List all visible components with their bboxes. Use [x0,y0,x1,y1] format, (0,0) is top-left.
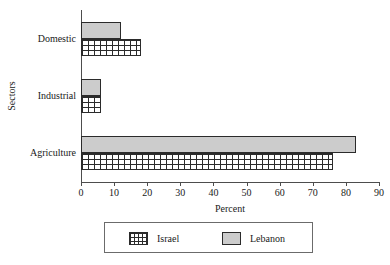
x-tick-label-70: 70 [298,187,328,199]
x-tick-80 [346,182,347,186]
x-tick-label-40: 40 [198,187,228,199]
x-tick-label-0: 0 [66,187,96,199]
x-tick-0 [81,182,82,186]
x-tick-30 [180,182,181,186]
x-tick-label-80: 80 [331,187,361,199]
x-tick-50 [247,182,248,186]
bar-lebanon-industrial [81,79,101,96]
x-tick-label-10: 10 [99,187,129,199]
x-tick-60 [280,182,281,186]
category-label-agriculture: Agriculture [2,147,76,159]
x-tick-20 [147,182,148,186]
category-label-domestic: Domestic [2,33,76,45]
x-tick-label-30: 30 [165,187,195,199]
bar-israel-industrial [81,96,101,113]
x-tick-70 [313,182,314,186]
x-tick-label-50: 50 [232,187,262,199]
bar-chart: DomesticIndustrialAgriculture 0102030405… [0,0,390,265]
x-tick-10 [114,182,115,186]
bar-israel-agriculture [81,153,333,170]
crosshatch-swatch-icon [129,232,148,245]
x-axis-line [81,182,380,183]
legend-box: Israel Lebanon [104,222,313,253]
legend-label-israel: Israel [157,233,179,245]
legend-entry-lebanon: Lebanon [222,231,285,246]
y-axis-title: Sectors [6,60,18,132]
legend-entry-israel: Israel [129,231,179,246]
bar-lebanon-domestic [81,22,121,39]
x-tick-90 [379,182,380,186]
bar-israel-domestic [81,39,141,56]
x-tick-label-20: 20 [132,187,162,199]
gray-swatch-icon [222,232,241,245]
bar-lebanon-agriculture [81,136,356,153]
plot-area [81,10,379,182]
legend-label-lebanon: Lebanon [250,233,285,245]
x-tick-label-60: 60 [265,187,295,199]
x-axis-title: Percent [81,203,379,215]
x-tick-40 [213,182,214,186]
x-tick-label-90: 90 [364,187,390,199]
